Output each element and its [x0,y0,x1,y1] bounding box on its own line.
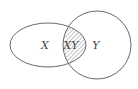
venn-diagram: X XY Y [0,0,138,89]
label-intersection: XY [62,39,80,52]
label-y: Y [92,39,101,52]
label-x: X [40,39,50,52]
